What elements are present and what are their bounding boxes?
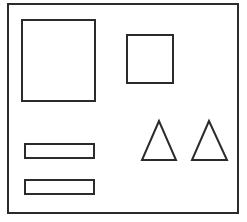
diagram-canvas [0, 0, 247, 222]
bar-bottom [25, 180, 94, 194]
triangle-right [192, 121, 227, 160]
outer-frame [8, 4, 238, 213]
large-rectangle [22, 20, 95, 101]
bar-top [25, 144, 94, 158]
small-square [127, 35, 173, 83]
shape-group [22, 20, 227, 194]
triangle-left [142, 121, 176, 160]
